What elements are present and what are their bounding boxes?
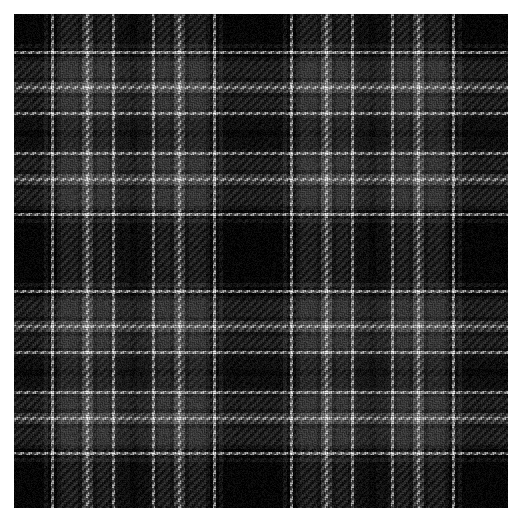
image-canvas (0, 0, 523, 519)
tartan-swatch (14, 14, 508, 508)
